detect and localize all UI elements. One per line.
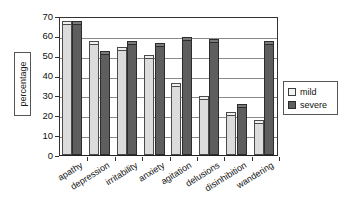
legend-item-severe: severe [288, 98, 334, 111]
legend: mild severe [283, 81, 338, 115]
legend-label-mild: mild [300, 87, 317, 97]
legend-swatch-severe [288, 101, 296, 109]
bar-chart: percentage 010203040506070 apathydepress… [0, 0, 344, 206]
legend-item-mild: mild [288, 85, 334, 98]
legend-label-severe: severe [300, 100, 327, 110]
legend-swatch-mild [288, 88, 296, 96]
